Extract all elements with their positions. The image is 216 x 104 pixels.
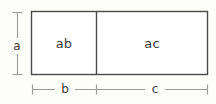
region-label-ab: ab [46,37,82,50]
dimension-label-b: b [55,83,75,95]
dimension-label-c: c [145,83,165,95]
dimension-label-a: a [8,38,26,54]
geometry-diagram: ab ac a b c [0,0,216,104]
diagram-canvas [0,0,216,104]
region-label-ac: ac [134,37,170,50]
